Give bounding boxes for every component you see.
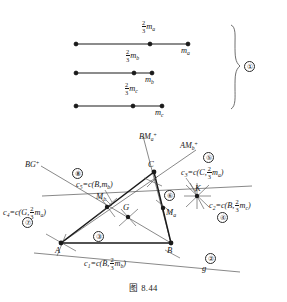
step-marker-1: ① [244,61,255,72]
step-marker-6: ⑥ [164,190,175,201]
ray-base: AM [180,141,192,150]
c3-close: ) [221,168,224,177]
segment-ma-mid-dot [148,42,152,46]
point-label-Mb: Mb [96,192,106,202]
c2-fraction: 23 [235,199,239,213]
c4-close: ) [43,208,46,217]
segment-ma-start-dot [74,42,78,46]
label-c1: c1=c(B,23mb) [84,257,126,271]
end-label-sub: a [187,50,190,56]
ray-label-BG: BG+ [25,161,39,170]
ray-label-BMa: BMa+ [139,133,157,142]
ray-base: BM [139,132,151,141]
step-marker-5: ⑤ [203,152,214,163]
ray-label-AMb: AMb+ [180,142,198,151]
G-var: G [123,202,129,212]
step-marker-8-left: ⑧ [72,168,83,179]
group-brace [231,25,240,109]
end-label-sub: c [161,112,164,118]
c2-close: ) [248,201,251,210]
point-Ma [161,206,165,210]
end-label-sub: b [151,79,154,85]
segment-mb-end-label: mb [145,75,154,85]
point-G [126,215,130,219]
auxiliary-line-through-K [42,186,252,196]
Ma-sub: a [173,212,176,218]
c5-close: ) [110,180,113,189]
segment-mb-fraction-label: 2 3 mb [125,49,139,63]
point-C [152,170,157,175]
segment-mc-mid-dot [131,104,135,108]
step-marker-4: ④ [217,212,228,223]
point-label-K: K [195,184,201,193]
point-label-Ma: Ma [166,208,176,218]
segment-ma-end-label: ma [181,46,190,56]
figure-8-44: 2 3 ma ma 2 3 mb mb 2 3 mc mc ① BMa+ AMb… [0,0,287,302]
step-marker-7: ⑦ [22,217,33,228]
vertex-label-C: C [148,160,154,169]
label-c3: c3=c(C,23ma) [181,166,223,180]
segment-mc-end-label: mc [155,108,164,118]
step-marker-3: ③ [93,231,104,242]
label-c5: c5=c(B,mb) [76,181,113,190]
point-Mb [105,205,109,209]
figure-caption: 图 8.44 [0,281,287,293]
label-c2: c2=c(B,23mc) [209,199,251,213]
figure-drawing [0,0,287,302]
segment-mb-start-dot [74,71,78,75]
ray-AMb [61,150,196,243]
c3-fraction: 23 [207,166,211,180]
segment-mb-variable: mb [130,51,139,60]
segment-mb-mid-dot [132,71,136,75]
segment-mc-variable: mc [129,84,138,93]
segment-ma-fraction-label: 2 3 ma [141,20,155,34]
vertex-label-A: A [55,246,60,255]
point-label-G: G [123,203,129,212]
ray-base: BG [25,160,36,169]
ray-sup: + [154,132,157,138]
step-marker-2: ② [205,253,216,264]
point-K [195,194,199,198]
segment-mc-start-dot [74,104,78,108]
ray-sup: + [36,160,39,166]
segment-ma-variable: ma [146,22,155,31]
c1-fraction: 23 [110,257,114,271]
vertex-label-B: B [167,246,172,255]
c1-close: ) [123,259,126,268]
ray-sup: + [195,141,198,147]
line-label-g: g [202,264,206,273]
K-var: K [195,183,201,193]
Mb-sub: b [103,196,106,202]
segment-mc-fraction-label: 2 3 mc [124,82,138,96]
